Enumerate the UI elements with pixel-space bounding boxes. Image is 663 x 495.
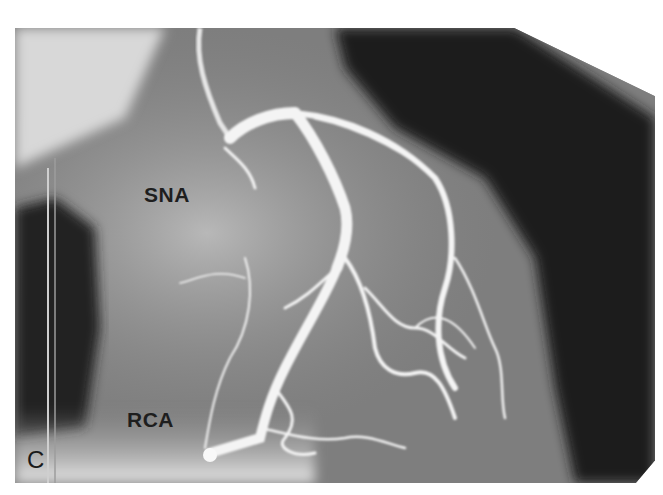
rca-label: RCA [127, 408, 174, 432]
panel-label: C [27, 446, 44, 474]
angiogram-illustration [15, 28, 655, 483]
sna-label: SNA [144, 183, 190, 207]
angiogram-figure: SNA RCA C [0, 0, 663, 495]
angiogram-image [15, 28, 655, 483]
